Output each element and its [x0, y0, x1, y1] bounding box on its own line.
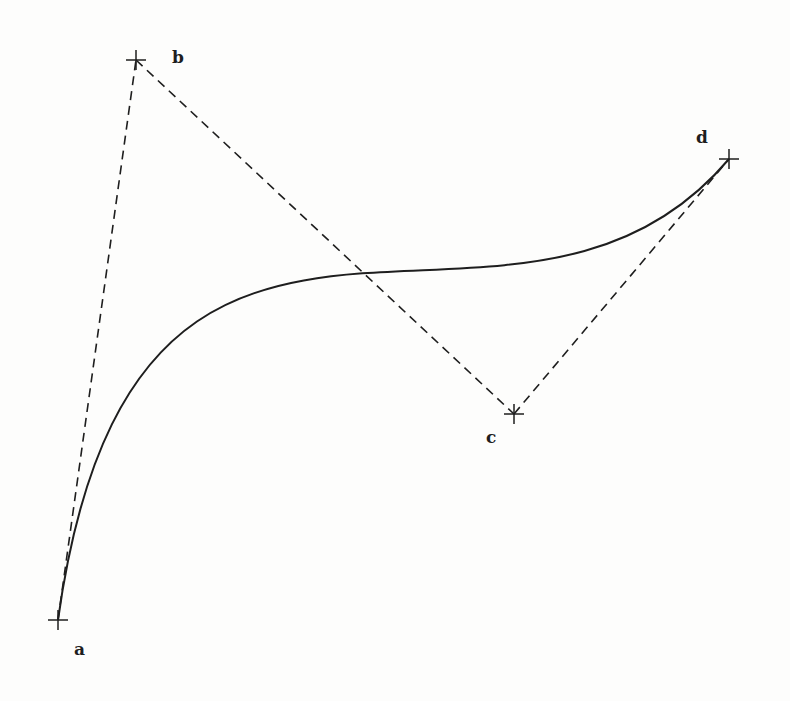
cross-marker-a-icon	[48, 610, 68, 630]
cross-marker-b-icon	[126, 50, 146, 70]
polygon-segment-c-d	[514, 159, 729, 414]
cross-marker-c-icon	[504, 404, 524, 424]
control-point-labels: a b c d	[74, 47, 708, 659]
polygon-segment-a-b	[58, 60, 136, 620]
point-label-d: d	[696, 127, 708, 147]
bezier-curve	[58, 159, 729, 620]
polygon-segment-b-c	[136, 60, 514, 414]
point-label-c: c	[486, 427, 496, 447]
bezier-figure: a b c d	[0, 0, 790, 701]
control-point-markers	[48, 50, 739, 630]
point-label-a: a	[74, 639, 85, 659]
control-polygon	[58, 60, 729, 620]
point-label-b: b	[172, 47, 184, 67]
